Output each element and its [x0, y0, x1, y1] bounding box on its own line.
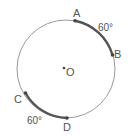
point-a [73, 19, 77, 23]
point-d [65, 116, 69, 120]
label-o: O [66, 66, 75, 78]
label-c: C [14, 93, 22, 105]
label-b: B [114, 48, 121, 60]
arc-ab-label: 60° [98, 22, 113, 33]
center-point [63, 67, 66, 70]
point-c [24, 91, 28, 95]
label-a: A [73, 7, 81, 19]
circle-diagram: A B C D O 60° 60° [0, 0, 136, 136]
arc-cd-label: 60° [27, 115, 42, 126]
label-d: D [63, 121, 71, 133]
